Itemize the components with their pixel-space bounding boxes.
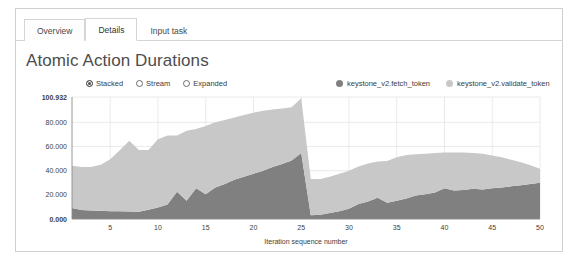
svg-text:100.932: 100.932 — [42, 94, 67, 101]
svg-text:25: 25 — [297, 224, 305, 231]
legend-swatch-validate-token — [446, 80, 453, 87]
display-mode-radio-group: Stacked Stream Expanded — [86, 79, 227, 88]
tab-input-task[interactable]: Input task — [137, 19, 200, 42]
chart-plot-area: 100.93280.00060.00040.00020.0000.0005101… — [16, 91, 564, 251]
svg-text:15: 15 — [202, 224, 210, 231]
svg-text:80.000: 80.000 — [46, 119, 68, 126]
radio-stream-dot-icon[interactable] — [136, 80, 143, 87]
screenshot-root: Overview Details Input task Atomic Actio… — [0, 0, 581, 270]
radio-stacked-dot-icon[interactable] — [86, 80, 93, 87]
tab-details[interactable]: Details — [85, 18, 137, 42]
svg-text:40.000: 40.000 — [46, 167, 68, 174]
stacked-area-chart: 100.93280.00060.00040.00020.0000.0005101… — [16, 91, 564, 251]
svg-text:35: 35 — [393, 224, 401, 231]
svg-text:0.000: 0.000 — [49, 216, 67, 223]
legend-item-validate-token[interactable]: keystone_v2.validate_token — [446, 79, 550, 88]
legend-item-fetch-token[interactable]: keystone_v2.fetch_token — [336, 79, 430, 88]
radio-expanded-dot-icon[interactable] — [183, 80, 190, 87]
svg-text:Iteration sequence number: Iteration sequence number — [264, 238, 348, 246]
svg-text:5: 5 — [108, 224, 112, 231]
radio-expanded-label: Expanded — [193, 79, 227, 88]
svg-text:60.000: 60.000 — [46, 143, 68, 150]
svg-text:50: 50 — [536, 224, 544, 231]
svg-text:45: 45 — [488, 224, 496, 231]
radio-stream[interactable]: Stream — [136, 79, 170, 88]
svg-text:30: 30 — [345, 224, 353, 231]
series-legend: keystone_v2.fetch_token keystone_v2.vali… — [336, 79, 550, 88]
radio-stacked-label: Stacked — [96, 79, 123, 88]
radio-expanded[interactable]: Expanded — [183, 79, 227, 88]
tab-bar: Overview Details Input task — [16, 9, 562, 41]
legend-swatch-fetch-token — [336, 80, 343, 87]
svg-text:20.000: 20.000 — [46, 191, 68, 198]
tab-overview[interactable]: Overview — [24, 19, 85, 42]
page-title: Atomic Action Durations — [26, 51, 209, 71]
radio-stream-label: Stream — [146, 79, 170, 88]
legend-label-fetch-token: keystone_v2.fetch_token — [347, 79, 430, 88]
legend-label-validate-token: keystone_v2.validate_token — [457, 79, 550, 88]
svg-text:10: 10 — [154, 224, 162, 231]
svg-text:40: 40 — [441, 224, 449, 231]
report-panel: Overview Details Input task Atomic Actio… — [15, 8, 563, 252]
svg-text:20: 20 — [250, 224, 258, 231]
radio-stacked[interactable]: Stacked — [86, 79, 123, 88]
